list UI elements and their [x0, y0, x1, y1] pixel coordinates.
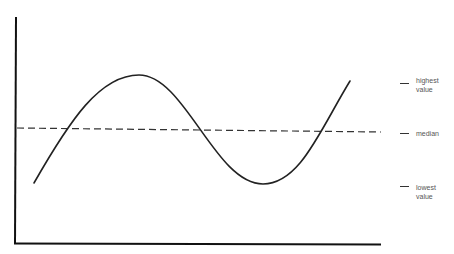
lowest-label: lowest value: [416, 183, 436, 201]
x-axis: [14, 244, 381, 245]
chart-canvas: [0, 0, 454, 254]
highest-label-line1: highest: [416, 76, 439, 85]
median-label-text: median: [416, 129, 439, 138]
highest-marker-icon: [400, 83, 409, 84]
lowest-marker-icon: [400, 186, 409, 187]
wave-curve: [34, 75, 350, 184]
lowest-label-line1: lowest: [416, 183, 436, 192]
median-label: median: [416, 129, 439, 138]
median-marker-icon: [400, 133, 409, 134]
highest-label-line2: value: [416, 85, 439, 94]
y-axis: [15, 17, 16, 244]
highest-label: highest value: [416, 76, 439, 94]
lowest-label-line2: value: [416, 192, 436, 201]
